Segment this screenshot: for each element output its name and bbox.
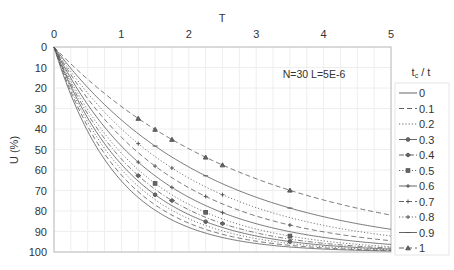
marker-icon bbox=[136, 142, 140, 146]
marker-icon bbox=[170, 166, 174, 170]
x-tick-label: 1 bbox=[118, 28, 124, 40]
chart-annotation: N=30 L=5E-6 bbox=[283, 68, 346, 80]
marker-icon bbox=[170, 185, 174, 189]
marker-icon bbox=[204, 220, 208, 224]
y-tick-label: 100 bbox=[29, 246, 47, 258]
marker-icon bbox=[288, 240, 292, 244]
marker-icon bbox=[221, 193, 225, 197]
marker-icon bbox=[288, 234, 292, 238]
x-tick-label: 0 bbox=[51, 28, 57, 40]
marker-icon bbox=[204, 194, 208, 198]
marker-icon bbox=[406, 138, 410, 142]
legend-title: tc / t bbox=[412, 66, 431, 79]
legend-label: 0.2 bbox=[419, 118, 434, 130]
legend-label: 0.4 bbox=[419, 149, 434, 161]
marker-icon bbox=[153, 193, 157, 197]
legend-label: 0 bbox=[419, 87, 425, 99]
legend-label: 0.8 bbox=[419, 211, 434, 223]
legend-label: 1 bbox=[419, 242, 425, 254]
legend-label: 0.7 bbox=[419, 196, 434, 208]
y-tick-label: 90 bbox=[35, 226, 47, 238]
marker-icon bbox=[288, 223, 292, 227]
y-tick-label: 50 bbox=[35, 144, 47, 156]
legend-label: 0.1 bbox=[419, 103, 434, 115]
legend-label: 0.5 bbox=[419, 165, 434, 177]
y-tick-label: 80 bbox=[35, 205, 47, 217]
marker-icon bbox=[220, 222, 225, 226]
y-axis-title: U (%) bbox=[8, 136, 20, 164]
x-tick-label: 5 bbox=[388, 28, 394, 40]
legend-label: 0.3 bbox=[419, 134, 434, 146]
y-tick-label: 10 bbox=[35, 62, 47, 74]
legend: tc / t 00.10.20.30.40.50.60.70.80.91 bbox=[395, 66, 449, 255]
marker-icon bbox=[220, 163, 225, 167]
marker-icon bbox=[170, 137, 175, 141]
marker-icon bbox=[203, 155, 208, 159]
y-tick-label: 60 bbox=[35, 164, 47, 176]
chart: 012345 0102030405060708090100 T U (%) N=… bbox=[0, 0, 454, 270]
y-axis-ticks: 0102030405060708090100 bbox=[29, 41, 47, 258]
marker-icon bbox=[136, 116, 141, 120]
marker-icon bbox=[153, 127, 158, 131]
y-tick-label: 70 bbox=[35, 185, 47, 197]
y-tick-label: 0 bbox=[41, 41, 47, 53]
x-tick-label: 3 bbox=[253, 28, 259, 40]
x-axis-title: T bbox=[219, 12, 226, 24]
marker-icon bbox=[204, 211, 208, 215]
x-axis-ticks: 012345 bbox=[51, 28, 394, 40]
marker-icon bbox=[288, 188, 293, 192]
x-tick-label: 4 bbox=[321, 28, 327, 40]
legend-label: 0.6 bbox=[419, 180, 434, 192]
marker-icon bbox=[153, 182, 157, 186]
y-tick-label: 20 bbox=[35, 82, 47, 94]
y-tick-label: 30 bbox=[35, 103, 47, 115]
x-tick-label: 2 bbox=[186, 28, 192, 40]
marker-icon bbox=[406, 169, 410, 173]
y-tick-label: 40 bbox=[35, 123, 47, 135]
legend-label: 0.9 bbox=[419, 227, 434, 239]
